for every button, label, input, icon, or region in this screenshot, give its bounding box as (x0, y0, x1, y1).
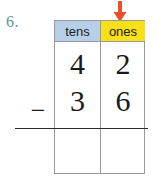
subtrahend-tens-digit: 3 (55, 82, 100, 120)
problem-number: 6. (6, 14, 19, 30)
place-value-table: tens 4 3 ones 2 6 (54, 20, 145, 174)
subtraction-rule-line (15, 128, 148, 129)
ones-column-header: ones (101, 21, 145, 42)
down-arrow-icon (112, 1, 128, 22)
minuend-ones-digit: 2 (101, 42, 145, 82)
difference-tens-digit[interactable] (55, 120, 100, 165)
tens-column: tens 4 3 (55, 21, 100, 173)
ones-column: ones 2 6 (100, 21, 145, 173)
subtraction-worksheet-problem: 6. tens 4 3 ones 2 6 − (0, 0, 159, 181)
subtrahend-ones-digit: 6 (101, 82, 145, 120)
minus-operator: − (29, 99, 47, 123)
tens-column-header: tens (55, 21, 100, 42)
difference-ones-digit[interactable] (101, 120, 145, 165)
minuend-tens-digit: 4 (55, 42, 100, 82)
